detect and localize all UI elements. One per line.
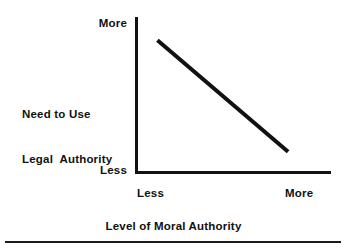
y-axis-tick-more: More: [0, 16, 127, 30]
trend-line: [157, 40, 288, 152]
y-axis-title: Need to Use Legal Authority: [22, 77, 132, 197]
bottom-divider-rule: [5, 241, 341, 243]
y-axis-title-line-1: Need to Use: [22, 107, 132, 122]
chart-figure: More Less Need to Use Legal Authority Le…: [0, 0, 347, 252]
x-axis-title: Level of Moral Authority: [0, 219, 347, 233]
y-axis-title-line-2: Legal Authority: [22, 152, 132, 167]
x-axis-tick-less: Less: [137, 186, 164, 200]
x-axis-tick-more: More: [285, 186, 313, 200]
